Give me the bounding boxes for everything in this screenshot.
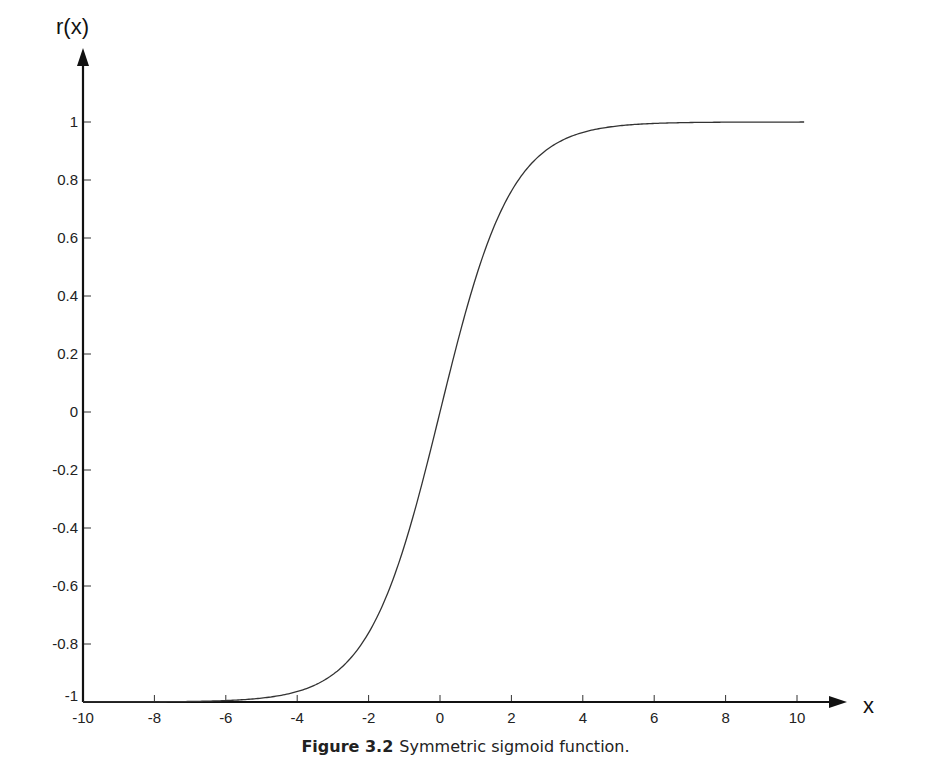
x-axis-ticks: -10-8-6-4-20246810 [72,695,805,726]
sigmoid-curve [83,122,804,702]
x-tick-label: -2 [362,709,375,726]
y-tick-label: 0 [70,403,78,420]
x-tick-label: -6 [219,709,232,726]
x-tick-label: 6 [650,709,658,726]
x-tick-label: -8 [148,709,161,726]
y-tick-label: 0.2 [57,345,78,362]
sigmoid-chart: -1-0.8-0.6-0.4-0.200.20.40.60.81 -10-8-6… [0,0,931,735]
x-tick-label: 2 [507,709,515,726]
y-tick-label: 0.6 [57,229,78,246]
x-tick-label: 4 [579,709,587,726]
y-tick-label: 0.8 [57,171,78,188]
y-tick-label: -0.6 [52,577,78,594]
y-axis-arrow-icon [77,48,89,66]
y-tick-label: 1 [70,113,78,130]
y-tick-label: -0.2 [52,461,78,478]
x-tick-label: -4 [291,709,304,726]
figure-caption: Figure 3.2Symmetric sigmoid function. [0,737,931,756]
x-tick-label: -10 [72,709,94,726]
x-tick-label: 0 [436,709,444,726]
x-axis-arrow-icon [829,696,847,708]
x-tick-label: 10 [789,709,806,726]
y-tick-label: -1 [65,687,78,704]
caption-text: Symmetric sigmoid function. [399,737,629,756]
x-tick-label: 8 [721,709,729,726]
x-axis-title: x [863,693,874,718]
y-tick-label: -0.4 [52,519,78,536]
y-axis-title: r(x) [56,14,89,39]
figure-number: Figure 3.2 [301,737,393,756]
y-tick-label: 0.4 [57,287,78,304]
y-axis-ticks: -1-0.8-0.6-0.4-0.200.20.40.60.81 [52,113,91,704]
y-tick-label: -0.8 [52,635,78,652]
